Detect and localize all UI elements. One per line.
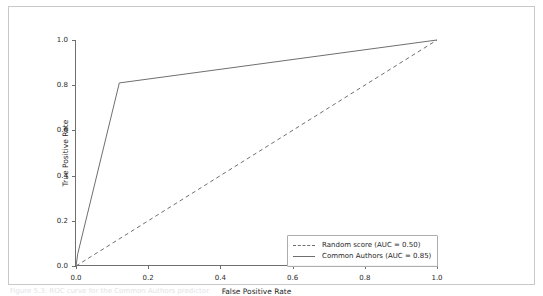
x-tick-label: 0.4 (215, 274, 226, 282)
legend-item-label: Random score (AUC = 0.50) (322, 240, 420, 251)
y-tick-label: 0.8 (57, 81, 68, 89)
legend-swatch-solid-icon (293, 256, 315, 257)
y-tick-mark (72, 221, 76, 222)
y-tick-mark (72, 85, 76, 86)
roc-plot-area: 0.00.20.40.60.81.0 0.00.20.40.60.81.0 Fa… (75, 40, 436, 266)
x-tick-mark (220, 265, 221, 269)
y-tick-mark (72, 176, 76, 177)
y-tick-mark (72, 130, 76, 131)
legend-swatch-dashed-icon (293, 245, 315, 246)
x-tick-mark (148, 265, 149, 269)
roc-curves-svg (76, 40, 437, 266)
x-tick-label: 0.0 (70, 274, 81, 282)
y-tick-mark (72, 40, 76, 41)
legend-item: Random score (AUC = 0.50) (293, 240, 431, 251)
roc-curve-random (76, 40, 437, 266)
x-tick-label: 0.2 (143, 274, 154, 282)
figure-caption: Figure 5.3: ROC curve for the Common Aut… (10, 288, 310, 295)
y-tick-label: 0.0 (57, 262, 68, 270)
legend-item: Common Authors (AUC = 0.85) (293, 251, 431, 262)
x-tick-label: 0.6 (287, 274, 298, 282)
x-tick-label: 0.8 (359, 274, 370, 282)
y-tick-label: 1.0 (57, 36, 68, 44)
chart-legend: Random score (AUC = 0.50) Common Authors… (287, 235, 438, 267)
x-tick-mark (76, 265, 77, 269)
y-axis-label: True Positive Rate (61, 119, 70, 186)
y-tick-label: 0.2 (57, 217, 68, 225)
y-tick-mark (72, 266, 76, 267)
x-tick-label: 1.0 (431, 274, 442, 282)
figure-frame: 0.00.20.40.60.81.0 0.00.20.40.60.81.0 Fa… (8, 6, 535, 285)
legend-item-label: Common Authors (AUC = 0.85) (322, 251, 431, 262)
